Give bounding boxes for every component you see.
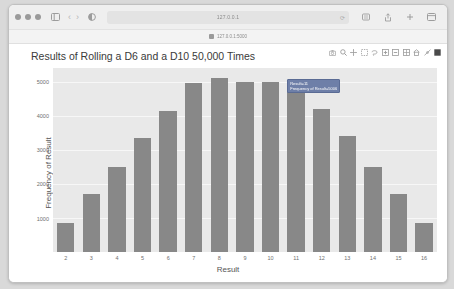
- zoom-icon[interactable]: [340, 49, 347, 56]
- x-axis-tick: 9: [243, 255, 246, 261]
- bar-slot: 15: [386, 68, 412, 252]
- x-axis-tick: 16: [421, 255, 427, 261]
- bar[interactable]: [313, 109, 330, 252]
- bar-slot: 8: [207, 68, 233, 252]
- x-axis-label: Result: [9, 265, 447, 274]
- reset-axes-icon[interactable]: [413, 49, 420, 56]
- bookmark-favicon-icon: [209, 34, 214, 39]
- bar-slot: 4: [104, 68, 130, 252]
- x-axis-tick: 5: [141, 255, 144, 261]
- x-axis-tick: 6: [167, 255, 170, 261]
- forward-button[interactable]: ›: [76, 12, 79, 22]
- page-content: Results of Rolling a D6 and a D10 50,000…: [9, 44, 447, 282]
- bar[interactable]: [134, 138, 151, 252]
- bar-slot: 11: [283, 68, 309, 252]
- bar[interactable]: [83, 194, 100, 252]
- y-axis-tick: 4000: [37, 113, 49, 119]
- zoom-in-box-icon[interactable]: [361, 49, 368, 56]
- chart-title: Results of Rolling a D6 and a D10 50,000…: [31, 50, 255, 62]
- bookmark-item[interactable]: 127.0.0.1:5000: [209, 34, 247, 39]
- bar[interactable]: [211, 78, 228, 252]
- bar-slot: 2: [53, 68, 79, 252]
- bar-slot: 13: [335, 68, 361, 252]
- x-axis-tick: 15: [395, 255, 401, 261]
- bookmarks-bar: 127.0.0.1:5000: [9, 30, 447, 44]
- bar[interactable]: [108, 167, 125, 252]
- reload-icon[interactable]: ⟳: [340, 14, 345, 21]
- browser-toolbar: ‹ › 127.0.0.1 ⟳: [9, 5, 447, 30]
- screenshot-root: ‹ › 127.0.0.1 ⟳: [0, 0, 454, 289]
- plot-container: Frequency of Result 10002000300040005000…: [9, 64, 447, 282]
- tab-overview-icon[interactable]: [425, 11, 438, 24]
- pan-icon[interactable]: [350, 49, 357, 56]
- new-tab-icon[interactable]: [403, 11, 416, 24]
- x-axis-tick: 11: [293, 255, 299, 261]
- bookmark-label[interactable]: 127.0.0.1:5000: [217, 34, 247, 39]
- bar[interactable]: [339, 136, 356, 252]
- toggle-spike-lines-icon[interactable]: [424, 49, 431, 56]
- share-icon[interactable]: [381, 11, 394, 24]
- bar[interactable]: [57, 223, 74, 252]
- address-bar[interactable]: 127.0.0.1 ⟳: [107, 11, 349, 24]
- back-button[interactable]: ‹: [68, 12, 71, 22]
- x-axis-tick: 8: [218, 255, 221, 261]
- plotly-modebar[interactable]: [329, 49, 441, 56]
- camera-icon[interactable]: [329, 49, 336, 56]
- address-text[interactable]: 127.0.0.1: [217, 14, 240, 20]
- bar[interactable]: [159, 111, 176, 252]
- bar-slot: 3: [79, 68, 105, 252]
- bar-slot: 10: [258, 68, 284, 252]
- privacy-shield-icon[interactable]: [85, 11, 98, 24]
- sidebar-icon[interactable]: [49, 11, 62, 24]
- bar[interactable]: [364, 167, 381, 252]
- x-axis-tick: 2: [64, 255, 67, 261]
- bar-slot: 7: [181, 68, 207, 252]
- x-axis-tick: 4: [115, 255, 118, 261]
- bar-slot: 12: [309, 68, 335, 252]
- x-axis-tick: 14: [370, 255, 376, 261]
- navigation-arrows[interactable]: ‹ ›: [68, 12, 79, 22]
- x-axis-tick: 3: [90, 255, 93, 261]
- bar-slot: 5: [130, 68, 156, 252]
- bar-slot: 6: [155, 68, 181, 252]
- y-axis-tick: 3000: [37, 147, 49, 153]
- window-controls[interactable]: [15, 14, 41, 20]
- reader-icon[interactable]: [359, 11, 372, 24]
- autoscale-icon[interactable]: [403, 49, 410, 56]
- y-axis-tick: 5000: [37, 79, 49, 85]
- zoom-out-icon[interactable]: [392, 49, 399, 56]
- x-axis-tick: 10: [267, 255, 273, 261]
- hover-tooltip: Result=11 Frequency of Result=5006: [287, 79, 340, 93]
- bar[interactable]: [236, 82, 253, 252]
- bar[interactable]: [185, 83, 202, 252]
- bar[interactable]: [390, 194, 407, 252]
- lasso-select-icon[interactable]: [371, 49, 378, 56]
- x-axis-tick: 13: [344, 255, 350, 261]
- minimize-button[interactable]: [25, 14, 31, 20]
- y-axis-tick: 1000: [37, 216, 49, 222]
- maximize-button[interactable]: [35, 14, 41, 20]
- bar[interactable]: [262, 82, 279, 252]
- y-axis-tick: 2000: [37, 181, 49, 187]
- plot-area[interactable]: 10002000300040005000 2345678910111213141…: [53, 68, 437, 252]
- bar-slot: 9: [232, 68, 258, 252]
- zoom-in-icon[interactable]: [382, 49, 389, 56]
- bar[interactable]: [415, 223, 432, 252]
- bar[interactable]: [287, 82, 304, 252]
- bar-series: 2345678910111213141516: [53, 68, 437, 252]
- x-axis-tick: 12: [319, 255, 325, 261]
- bar-slot: 14: [360, 68, 386, 252]
- x-axis-tick: 7: [192, 255, 195, 261]
- hover-compare-icon[interactable]: [434, 49, 441, 56]
- close-button[interactable]: [15, 14, 21, 20]
- toolbar-right-icons: [359, 11, 441, 24]
- tooltip-line-2: Frequency of Result=5006: [290, 86, 337, 91]
- browser-window: ‹ › 127.0.0.1 ⟳: [8, 4, 448, 283]
- bar-slot: 16: [411, 68, 437, 252]
